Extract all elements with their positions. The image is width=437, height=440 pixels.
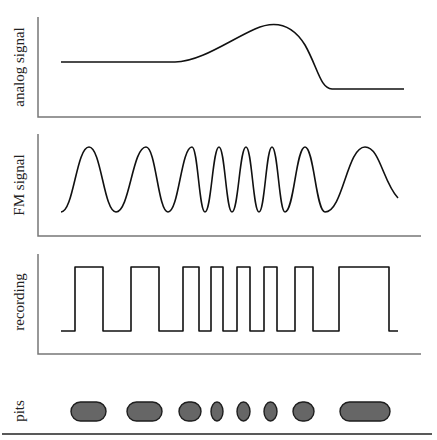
fm-signal-wave — [61, 147, 398, 212]
label-recording: recording — [11, 273, 27, 331]
pit-6 — [264, 402, 277, 421]
panel-analog-signal: analog signal — [11, 17, 421, 117]
recording-square-wave — [61, 267, 398, 331]
label-fm-signal: FM signal — [11, 154, 27, 215]
pit-5 — [237, 402, 250, 421]
signal-encoding-diagram: analog signal FM signal recording pits — [0, 0, 437, 440]
panel-recording: recording — [11, 254, 421, 354]
analog-signal-curve — [61, 24, 404, 89]
label-analog-signal: analog signal — [11, 27, 27, 107]
pit-8 — [340, 402, 390, 421]
label-pits: pits — [11, 400, 27, 422]
axis-recording — [38, 254, 421, 354]
pits-group — [71, 402, 390, 421]
pit-4 — [211, 402, 223, 421]
pit-2 — [127, 402, 162, 421]
pits-row: pits — [2, 400, 432, 434]
axis-analog — [38, 17, 421, 117]
pit-1 — [71, 402, 106, 421]
pit-3 — [179, 402, 201, 421]
pit-7 — [293, 402, 314, 421]
panel-fm-signal: FM signal — [11, 134, 421, 236]
axis-fm — [38, 134, 421, 236]
